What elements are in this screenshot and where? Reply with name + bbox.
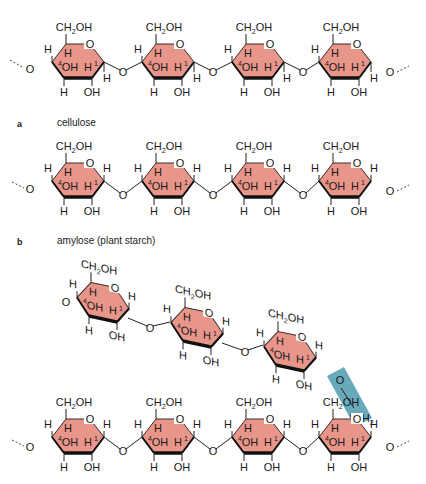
glycosidic-bond — [128, 318, 147, 326]
c4-h: H — [256, 326, 264, 340]
glycosidic-bond — [284, 181, 300, 193]
ch2oh-label: CH2OH — [323, 21, 359, 35]
carbon-1-label: 1 — [184, 60, 188, 67]
c5-h: H — [154, 166, 162, 178]
c1-h: H — [283, 162, 291, 174]
c5-h: H — [331, 166, 339, 178]
ch2oh-label: CH2OH — [56, 396, 92, 410]
c3-h: H — [85, 323, 93, 337]
glycosidic-oxygen: O — [209, 445, 218, 457]
c3-h: H — [60, 205, 68, 217]
c1-h: H — [103, 162, 111, 174]
glycosidic-bond — [216, 62, 232, 70]
c3-oh: OH — [152, 180, 169, 192]
chain-continuation — [397, 185, 409, 191]
glycosidic-bond — [126, 62, 142, 70]
c1-h: H — [193, 418, 201, 430]
c2-oh: OH — [84, 461, 101, 473]
terminal-oxygen: O — [26, 441, 35, 453]
glucose-ring: OCH2OHH41OHHHOHHH — [224, 140, 291, 217]
c2-h: H — [174, 436, 182, 448]
c1-h: H — [283, 72, 291, 84]
c5-h: H — [183, 310, 191, 324]
terminal-oxygen: O — [26, 183, 35, 195]
c3-oh: OH — [152, 436, 169, 448]
c2-h: H — [264, 436, 272, 448]
glucose-ring: OCH2OHH41OHHHOHHH — [134, 396, 201, 473]
c5-h: H — [154, 47, 162, 59]
glucose-ring: OCH2OHH41OHHHOHHH — [311, 140, 378, 217]
glucose-ring: OCH2OHH41OHHHOHHH — [256, 304, 323, 395]
c3-h: H — [327, 86, 335, 98]
c3-h: H — [150, 86, 158, 98]
c3-h: H — [327, 205, 335, 217]
glucose-ring: OCH2OHH41OHHHOHHH — [163, 280, 230, 371]
chain-continuation — [397, 66, 409, 72]
c1-h: H — [103, 72, 111, 84]
c1-h: H — [370, 72, 378, 84]
c3-h: H — [240, 205, 248, 217]
glucose-ring: OCH2OHH41OHHHOHHH — [311, 21, 378, 98]
c1-h: H — [222, 314, 230, 328]
c4-h: H — [224, 418, 232, 430]
ring-oxygen: O — [111, 281, 120, 295]
carbon-1-label: 1 — [274, 435, 278, 442]
chain-continuation — [10, 60, 24, 68]
c2-h: H — [351, 180, 359, 192]
c2-oh: OH — [109, 328, 125, 343]
glycosidic-bond — [104, 62, 120, 70]
c3-h: H — [272, 372, 280, 386]
glycosidic-oxygen: O — [119, 66, 128, 78]
carbon-1-label: 1 — [184, 435, 188, 442]
c3-h: H — [150, 205, 158, 217]
carbon-1-label: 1 — [184, 179, 188, 186]
c3-h: H — [179, 348, 187, 362]
c2-oh: OH — [351, 205, 368, 217]
ring-oxygen: O — [353, 413, 362, 425]
glucose-ring: OCH2OHH41OHHHOHHH — [311, 396, 378, 473]
glycosidic-oxygen: O — [299, 66, 308, 78]
glycosidic-bond — [194, 437, 210, 449]
carbon-1-label: 1 — [94, 60, 98, 67]
glycosidic-bond — [104, 181, 120, 193]
c5-h: H — [244, 166, 252, 178]
glycosidic-bond — [284, 437, 300, 449]
c3-oh: OH — [242, 436, 259, 448]
carbon-1-label: 1 — [361, 435, 365, 442]
c2-oh: OH — [264, 461, 281, 473]
c2-oh: OH — [84, 86, 101, 98]
ch2oh-label: CH2OH — [268, 306, 304, 328]
c1-h: H — [193, 72, 201, 84]
c3-h: H — [327, 461, 335, 473]
c4-h: H — [224, 162, 232, 174]
c1-h: H — [370, 162, 378, 174]
c3-oh: OH — [62, 180, 79, 192]
c3-h: H — [240, 86, 248, 98]
c3-oh: OH — [242, 180, 259, 192]
c3-h: H — [150, 461, 158, 473]
glycosidic-oxygen: O — [119, 189, 128, 201]
c2-h: H — [84, 180, 92, 192]
ch2oh-label: CH2OH — [56, 21, 92, 35]
c5-h: H — [331, 47, 339, 59]
glycosidic-bond — [306, 181, 319, 193]
ring-oxygen: O — [176, 38, 185, 50]
c2-oh: OH — [174, 205, 191, 217]
c4-h: H — [311, 43, 319, 55]
ring-oxygen: O — [205, 306, 214, 320]
terminal-oxygen: O — [386, 185, 395, 197]
ring-oxygen: O — [86, 413, 95, 425]
c2-oh: OH — [84, 205, 101, 217]
polysaccharide-diagram: OCH2OHH41OHHHOHHHOCH2OHH41OHHHOHHHOCH2OH… — [0, 0, 426, 484]
glucose-ring: OCH2OHH41OHHHOHHH — [224, 21, 291, 98]
c5-h: H — [64, 47, 72, 59]
c2-h: H — [109, 303, 117, 317]
glycosidic-bond — [222, 343, 242, 350]
c5-h: H — [244, 422, 252, 434]
c5-h: H — [244, 47, 252, 59]
carbon-1-label: 1 — [274, 60, 278, 67]
carbon-1-label: 1 — [94, 435, 98, 442]
ch2oh-label: CH2OH — [236, 396, 272, 410]
c2-oh: OH — [264, 205, 281, 217]
ring-oxygen: O — [86, 157, 95, 169]
